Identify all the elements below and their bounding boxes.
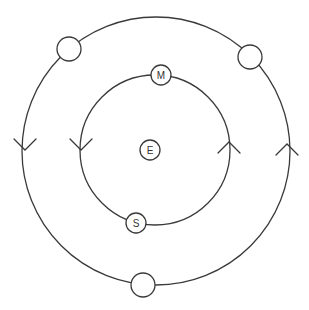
outer-arrow-up-icon [276, 144, 298, 155]
node-e: E [140, 140, 160, 160]
inner-arrow-up-icon [218, 142, 240, 153]
orbit-diagram: MSE [0, 0, 309, 310]
node-e-label: E [147, 145, 154, 156]
node-m: M [151, 65, 171, 85]
outer-node-1-circle [57, 37, 81, 61]
nodes-layer: MSE [57, 37, 262, 297]
outer-node-3-circle [131, 273, 155, 297]
outer-node-3 [131, 273, 155, 297]
outer-node-1 [57, 37, 81, 61]
outer-node-2 [238, 45, 262, 69]
node-s: S [126, 213, 146, 233]
outer-arrow-down-icon [14, 139, 36, 150]
node-m-label: M [157, 70, 165, 81]
node-s-label: S [133, 218, 140, 229]
outer-node-2-circle [238, 45, 262, 69]
